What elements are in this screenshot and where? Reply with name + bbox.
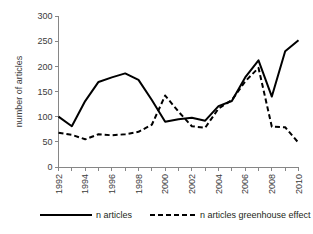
x-tick-label: 1992 bbox=[54, 174, 64, 194]
y-axis-title: number of articles bbox=[14, 55, 24, 127]
x-tick-label: 2000 bbox=[160, 174, 170, 194]
y-axis: 050100150200250300 bbox=[37, 11, 58, 172]
x-tick-label: 2002 bbox=[187, 174, 197, 194]
x-tick-label: 1996 bbox=[107, 174, 117, 194]
y-tick-label: 100 bbox=[37, 112, 52, 122]
x-tick-label: 2008 bbox=[267, 174, 277, 194]
y-tick-label: 300 bbox=[37, 11, 52, 21]
x-tick-label: 2006 bbox=[240, 174, 250, 194]
x-tick-label: 2004 bbox=[214, 174, 224, 194]
y-tick-label: 250 bbox=[37, 36, 52, 46]
x-tick-label: 1998 bbox=[134, 174, 144, 194]
chart-legend: n articlesn articles greenhouse effect bbox=[40, 210, 311, 220]
x-axis: 1992199419961998200020022004200620082010 bbox=[54, 167, 304, 194]
line-chart: 050100150200250300 199219941996199820002… bbox=[0, 0, 313, 234]
legend-label-1: n articles bbox=[96, 210, 133, 220]
y-tick-label: 0 bbox=[47, 162, 52, 172]
chart-container: 050100150200250300 199219941996199820002… bbox=[0, 0, 313, 234]
x-tick-label: 1994 bbox=[80, 174, 90, 194]
series-layer bbox=[59, 40, 299, 143]
y-tick-label: 50 bbox=[42, 137, 52, 147]
y-tick-label: 150 bbox=[37, 87, 52, 97]
legend-label-2: n articles greenhouse effect bbox=[200, 210, 311, 220]
y-axis-title-text: number of articles bbox=[14, 55, 24, 127]
y-tick-label: 200 bbox=[37, 62, 52, 72]
x-tick-label: 2010 bbox=[294, 174, 304, 194]
series-line-2 bbox=[59, 68, 299, 143]
